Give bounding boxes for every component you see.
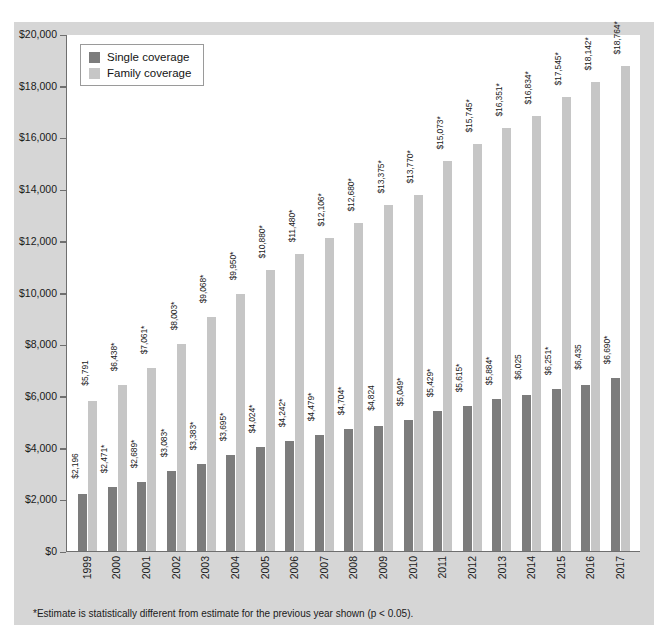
bar-value-label: $6,435 bbox=[577, 372, 586, 397]
x-axis-tick-label: 2015 bbox=[546, 554, 576, 606]
bar-group: $5,884*$16,351* bbox=[487, 35, 517, 551]
x-axis-tick-label: 2006 bbox=[279, 554, 309, 606]
bar-family[interactable]: $13,375* bbox=[384, 205, 393, 551]
bar-single[interactable]: $2,471* bbox=[108, 487, 117, 551]
bar-family[interactable]: $10,880* bbox=[266, 270, 275, 551]
x-axis-tick-label: 2014 bbox=[516, 554, 546, 606]
legend-label-single: Single coverage bbox=[107, 51, 189, 63]
bar-single[interactable]: $5,615* bbox=[463, 406, 472, 551]
bar-value-label: $4,024* bbox=[251, 433, 260, 462]
bar-group: $2,471*$6,438* bbox=[103, 35, 133, 551]
bar-group: $3,695*$9,950* bbox=[221, 35, 251, 551]
bar-group: $6,025$16,834* bbox=[517, 35, 547, 551]
bar-single[interactable]: $3,695* bbox=[226, 455, 235, 551]
bar-group: $4,242*$11,480* bbox=[280, 35, 310, 551]
bar-group: $3,083*$8,003* bbox=[162, 35, 192, 551]
bar-value-label: $5,049* bbox=[399, 406, 408, 435]
x-axis-tick-label: 2009 bbox=[368, 554, 398, 606]
x-axis-tick-label: 1999 bbox=[72, 554, 102, 606]
bar-value-label: $3,383* bbox=[192, 449, 201, 478]
bar-single[interactable]: $6,690* bbox=[611, 378, 620, 551]
y-axis: $0$2,000$4,000$6,000$8,000$10,000$12,000… bbox=[14, 35, 66, 552]
bar-single[interactable]: $3,083* bbox=[167, 471, 176, 551]
bar-value-label: $5,884* bbox=[488, 385, 497, 414]
bar-single[interactable]: $5,884* bbox=[492, 399, 501, 551]
bar-single[interactable]: $4,024* bbox=[256, 447, 265, 551]
bar-value-label: $16,351* bbox=[498, 112, 507, 145]
bar-single[interactable]: $4,824 bbox=[374, 426, 383, 551]
bar-family[interactable]: $12,680* bbox=[354, 223, 363, 551]
bar-single[interactable]: $6,435 bbox=[581, 385, 590, 551]
bar-single[interactable]: $2,196 bbox=[78, 494, 87, 551]
x-axis-tick-label: 2013 bbox=[487, 554, 517, 606]
bar-single[interactable]: $4,242* bbox=[285, 441, 294, 551]
bar-family[interactable]: $5,791 bbox=[88, 401, 97, 551]
bar-family[interactable]: $17,545* bbox=[562, 97, 571, 551]
bar-group: $6,435$18,142* bbox=[576, 35, 606, 551]
x-axis-tick-label: 2003 bbox=[191, 554, 221, 606]
bar-value-label: $10,880* bbox=[261, 253, 270, 286]
x-axis-tick-label: 2004 bbox=[220, 554, 250, 606]
bar-single[interactable]: $6,025 bbox=[522, 395, 531, 551]
y-axis-tick-label: $6,000 bbox=[25, 390, 57, 402]
bar-family[interactable]: $15,073* bbox=[443, 161, 452, 551]
bar-family[interactable]: $16,834* bbox=[532, 116, 541, 551]
legend-item-single: Single coverage bbox=[89, 51, 191, 63]
bar-single[interactable]: $3,383* bbox=[197, 464, 206, 551]
bar-family[interactable]: $18,764* bbox=[621, 66, 630, 551]
bar-family[interactable]: $18,142* bbox=[591, 82, 600, 551]
bar-family[interactable]: $6,438* bbox=[118, 385, 127, 551]
bar-family[interactable]: $15,745* bbox=[473, 144, 482, 551]
y-axis-tick-label: $16,000 bbox=[19, 131, 57, 143]
legend-label-family: Family coverage bbox=[107, 67, 191, 79]
bar-family[interactable]: $11,480* bbox=[295, 254, 304, 551]
bar-single[interactable]: $4,704* bbox=[344, 429, 353, 551]
bar-value-label: $5,429* bbox=[429, 396, 438, 425]
bar-single[interactable]: $5,429* bbox=[433, 411, 442, 551]
bar-value-label: $13,375* bbox=[380, 189, 389, 222]
bar-family[interactable]: $9,950* bbox=[236, 294, 245, 551]
bar-single[interactable]: $4,479* bbox=[315, 435, 324, 551]
chart-panel: $0$2,000$4,000$6,000$8,000$10,000$12,000… bbox=[14, 22, 654, 625]
bar-value-label: $15,073* bbox=[439, 145, 448, 178]
bar-value-label: $11,480* bbox=[291, 238, 300, 271]
bar-value-label: $6,438* bbox=[113, 370, 122, 399]
x-axis: 1999200020012002200320042005200620072008… bbox=[66, 554, 640, 606]
bar-single[interactable]: $2,689* bbox=[137, 482, 146, 552]
bar-value-label: $2,196 bbox=[74, 482, 83, 507]
bar-value-label: $9,068* bbox=[202, 302, 211, 331]
x-axis-tick-label: 2016 bbox=[576, 554, 606, 606]
bar-value-label: $18,764* bbox=[616, 49, 625, 82]
x-axis-tick-label: 2012 bbox=[457, 554, 487, 606]
bar-group: $2,689*$7,061* bbox=[132, 35, 162, 551]
bar-group: $6,251*$17,545* bbox=[546, 35, 576, 551]
bar-value-label: $4,824 bbox=[370, 414, 379, 439]
y-axis-tick-label: $18,000 bbox=[19, 80, 57, 92]
y-axis-tick-label: $20,000 bbox=[19, 28, 57, 40]
bar-family[interactable]: $9,068* bbox=[207, 317, 216, 551]
bar-value-label: $3,083* bbox=[163, 457, 172, 486]
bar-family[interactable]: $13,770* bbox=[414, 195, 423, 551]
bar-family[interactable]: $8,003* bbox=[177, 344, 186, 551]
bar-family[interactable]: $12,106* bbox=[325, 238, 334, 551]
bar-single[interactable]: $5,049* bbox=[404, 420, 413, 551]
bar-single[interactable]: $6,251* bbox=[552, 389, 561, 551]
legend-swatch-single-icon bbox=[89, 52, 100, 63]
x-axis-tick-label: 2001 bbox=[131, 554, 161, 606]
bar-family[interactable]: $7,061* bbox=[147, 368, 156, 551]
bar-value-label: $8,003* bbox=[173, 330, 182, 359]
bar-value-label: $12,680* bbox=[350, 207, 359, 240]
bar-group: $5,615*$15,745* bbox=[458, 35, 488, 551]
bar-group: $4,024*$10,880* bbox=[250, 35, 280, 551]
bar-family[interactable]: $16,351* bbox=[502, 128, 511, 551]
x-axis-tick-label: 2005 bbox=[250, 554, 280, 606]
bar-value-label: $12,106* bbox=[320, 221, 329, 254]
y-axis-tick-label: $8,000 bbox=[25, 338, 57, 350]
legend-item-family: Family coverage bbox=[89, 67, 191, 79]
bar-value-label: $7,061* bbox=[143, 354, 152, 383]
bar-value-label: $17,545* bbox=[557, 81, 566, 114]
bar-group: $6,690*$18,764* bbox=[605, 35, 635, 551]
bar-groups: $2,196$5,791$2,471*$6,438*$2,689*$7,061*… bbox=[67, 35, 640, 551]
bar-group: $3,383*$9,068* bbox=[191, 35, 221, 551]
x-axis-tick-label: 2017 bbox=[605, 554, 635, 606]
